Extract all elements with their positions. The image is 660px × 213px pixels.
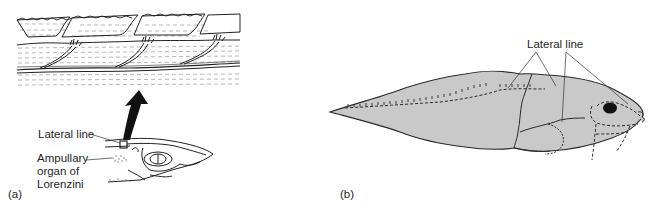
label-ampullary-line2: organ of xyxy=(37,165,79,178)
label-lateral-line-a: Lateral line xyxy=(38,128,94,141)
panel-b: Lateral line (b) xyxy=(300,0,660,213)
label-lateral-line-b: Lateral line xyxy=(527,38,583,51)
panel-a: Lateral line Ampullary organ of Lorenzin… xyxy=(0,0,300,213)
magnify-arrow xyxy=(123,90,148,140)
label-ampullary-line3: Lorenzini xyxy=(37,178,84,191)
panel-tag-b: (b) xyxy=(340,188,354,200)
fish-lateral-line-drawing xyxy=(300,0,660,213)
fish-eye xyxy=(603,103,617,114)
label-ampullary-line1: Ampullary xyxy=(37,152,88,165)
panel-tag-a: (a) xyxy=(8,188,22,200)
fish-body xyxy=(330,71,643,151)
